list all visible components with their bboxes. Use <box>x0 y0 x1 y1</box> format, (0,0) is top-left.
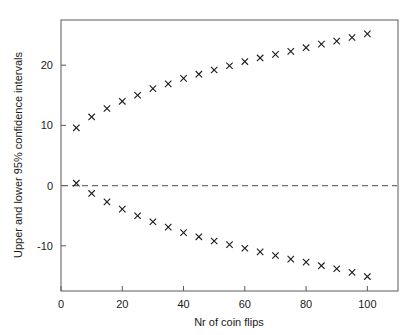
x-tick-label: 60 <box>239 298 251 310</box>
x-tick-label: 100 <box>358 298 376 310</box>
x-tick-label: 80 <box>300 298 312 310</box>
y-tick-label: -10 <box>37 240 53 252</box>
y-tick-label: 10 <box>41 119 53 131</box>
y-tick-label: 0 <box>47 180 53 192</box>
x-tick-label: 20 <box>116 298 128 310</box>
x-tick-label: 0 <box>58 298 64 310</box>
chart-figure: -1001020 020406080100 Nr of coin flips U… <box>0 0 420 335</box>
x-axis-title: Nr of coin flips <box>194 316 264 328</box>
x-tick-label: 40 <box>177 298 189 310</box>
y-tick-label: 20 <box>41 59 53 71</box>
scatter-plot-canvas: -1001020 020406080100 Nr of coin flips U… <box>0 0 420 335</box>
plot-background <box>0 0 420 335</box>
y-axis-title: Upper and lower 95% confidence intervals <box>12 51 24 258</box>
